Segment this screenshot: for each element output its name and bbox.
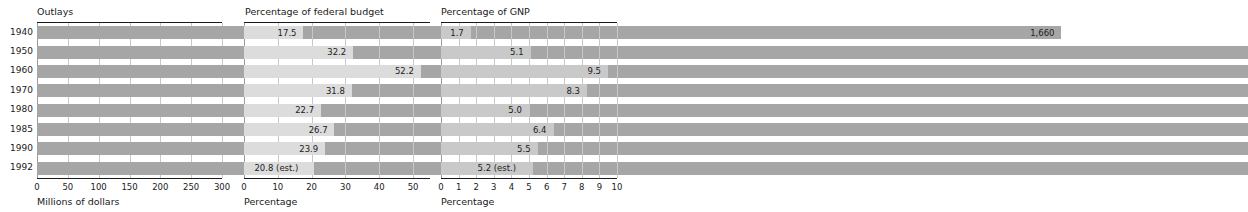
table-row: 5.0 [441,101,617,120]
value-label-1980: 5.0 [508,106,522,115]
bar-1960 [441,65,608,78]
value-label-1992: 5.2 (est.) [478,164,517,173]
table-row: 9.5 [441,62,617,81]
panel-title-3: Percentage of GNP [441,6,530,17]
table-row: 8.3 [441,81,617,100]
x-tick-0: 0 [438,182,443,192]
x-tick-2: 2 [473,182,478,192]
x-tick-9: 9 [597,182,602,192]
x-tick-7: 7 [561,182,566,192]
value-label-1970: 8.3 [566,86,580,95]
value-label-1940: 1,660 [1030,28,1054,37]
gridline-10 [617,23,618,178]
x-axis-label-3: Percentage [441,196,494,207]
value-label-1960: 9.5 [588,67,602,76]
x-tick-8: 8 [579,182,584,192]
table-row: 5.2 (est.) [441,159,617,178]
table-row: 5.5 [441,139,617,158]
x-tick-1: 1 [456,182,461,192]
value-label-1985: 6.4 [533,125,547,134]
value-label-1990: 5.5 [517,144,531,153]
plot-area-3: 1.75.19.58.35.06.45.55.2 (est.) [441,22,617,179]
x-tick-3: 3 [491,182,496,192]
value-label-1950: 5.1 [510,48,524,57]
x-tick-5: 5 [526,182,531,192]
x-tick-10: 10 [612,182,623,192]
table-row: 1.7 [441,23,617,42]
table-row: 6.4 [441,120,617,139]
bar-1970 [441,84,587,97]
value-label-1940: 1.7 [450,28,464,37]
table-row: 5.1 [441,42,617,61]
x-tick-6: 6 [544,182,549,192]
x-tick-4: 4 [509,182,514,192]
